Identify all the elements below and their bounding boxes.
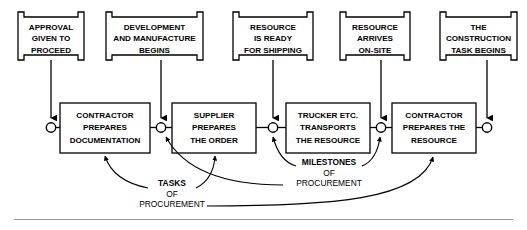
milestone-node-the-construction-task-begins: THE CONSTRUCTION TASK BEGINS xyxy=(440,12,517,60)
task-label-line-3: DOCUMENTATION xyxy=(70,136,141,145)
task-node-trucker-transports-the-resource: TRUCKER ETC. TRANSPORTS THE RESOURCE xyxy=(286,103,370,153)
milestone-label-line-2: CONSTRUCTION xyxy=(446,34,511,43)
milestone-label-line-3: PROCEED xyxy=(31,46,71,55)
milestone-node-approval-given-to-proceed: APPROVAL GIVEN TO PROCEED xyxy=(18,12,84,60)
annotation-tasks-title: TASKS xyxy=(158,178,186,188)
milestone-circle-5 xyxy=(482,123,491,132)
milestone-circle-4 xyxy=(376,123,385,132)
task-label-line-1: CONTRACTOR xyxy=(76,111,134,120)
annotation-milestones-title: MILESTONES xyxy=(302,157,357,167)
milestone-circle-3 xyxy=(268,123,277,132)
milestone-label-line-1: DEVELOPMENT xyxy=(124,23,186,32)
milestone-label-line-1: RESOURCE xyxy=(352,23,398,32)
task-label-line-1: SUPPLIER xyxy=(194,111,235,120)
milestone-label-line-1: RESOURCE xyxy=(250,23,296,32)
task-label-line-3: RESOURCE xyxy=(411,136,457,145)
annotation-tasks-of-procurement: TASKS OF PROCUREMENT xyxy=(139,178,205,209)
tasks-pointer-arrow-left xyxy=(105,156,148,188)
annotation-milestones-of: OF xyxy=(323,168,335,178)
task-label-line-3: THE ORDER xyxy=(190,136,238,145)
milestone-label-line-2: ARRIVES xyxy=(357,34,394,43)
annotation-tasks-of: OF xyxy=(166,189,178,199)
milestone-label-line-2: GIVEN TO xyxy=(32,34,71,43)
task-label-line-2: PREPARES xyxy=(192,123,237,132)
milestone-label-line-3: BEGINS xyxy=(139,46,171,55)
milestone-node-resource-is-ready-for-shipping: RESOURCE IS READY FOR SHIPPING xyxy=(233,12,313,60)
milestone-node-development-and-manufacture-begins: DEVELOPMENT AND MANUFACTURE BEGINS xyxy=(106,12,203,60)
annotation-milestones-of-procurement: MILESTONES OF PROCUREMENT xyxy=(296,157,362,188)
milestone-label-line-3: TASK BEGINS xyxy=(451,46,506,55)
task-label-line-2: TRANSPORTS xyxy=(300,123,356,132)
task-node-contractor-prepares-the-resource: CONTRACTOR PREPARES THE RESOURCE xyxy=(392,103,476,153)
milestone-label-line-1: APPROVAL xyxy=(29,23,73,32)
task-node-supplier-prepares-the-order: SUPPLIER PREPARES THE ORDER xyxy=(172,103,256,153)
milestone-label-line-2: IS READY xyxy=(254,34,293,43)
annotation-milestones-procurement: PROCUREMENT xyxy=(296,178,362,188)
flowchart-canvas: APPROVAL GIVEN TO PROCEED DEVELOPMENT AN… xyxy=(0,0,527,230)
procurement-flowchart: APPROVAL GIVEN TO PROCEED DEVELOPMENT AN… xyxy=(0,0,527,230)
task-node-contractor-prepares-documentation: CONTRACTOR PREPARES DOCUMENTATION xyxy=(60,103,150,153)
milestone-label-line-3: FOR SHIPPING xyxy=(244,46,302,55)
task-label-line-2: PREPARES xyxy=(83,123,128,132)
milestone-node-resource-arrives-on-site: RESOURCE ARRIVES ON-SITE xyxy=(340,12,410,60)
milestone-circle-1 xyxy=(46,123,55,132)
task-label-line-1: TRUCKER ETC. xyxy=(298,111,358,120)
annotation-tasks-procurement: PROCUREMENT xyxy=(139,199,205,209)
task-label-line-1: CONTRACTOR xyxy=(405,111,463,120)
task-label-line-3: THE RESOURCE xyxy=(296,136,361,145)
task-label-line-2: PREPARES THE xyxy=(403,123,466,132)
milestone-label-line-1: THE xyxy=(470,23,487,32)
milestone-circle-2 xyxy=(156,123,165,132)
milestone-label-line-3: ON-SITE xyxy=(359,46,392,55)
milestone-label-line-2: AND MANUFACTURE xyxy=(113,34,196,43)
